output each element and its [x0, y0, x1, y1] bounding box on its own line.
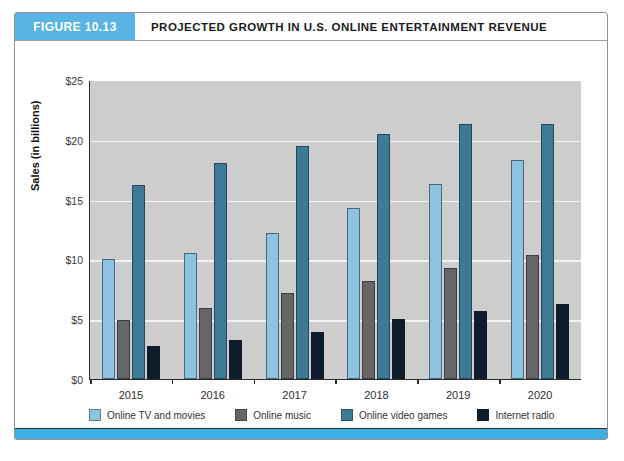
- bar: [541, 124, 554, 379]
- x-axis-tickmark: [335, 379, 337, 384]
- legend-label: Online video games: [359, 410, 447, 421]
- chart-legend: Online TV and moviesOnline musicOnline v…: [89, 409, 597, 421]
- legend-item: Internet radio: [477, 409, 554, 421]
- bar-chart: Sales (in billions) $0$5$10$15$20$25 201…: [15, 41, 607, 428]
- bar: [214, 163, 227, 379]
- y-axis-tick-label: $20: [43, 135, 83, 147]
- bar-group: 2018: [335, 81, 417, 379]
- x-axis-tickmark: [499, 379, 501, 384]
- bar: [377, 134, 390, 379]
- legend-item: Online video games: [341, 409, 447, 421]
- x-axis-tickmark: [90, 379, 92, 384]
- x-axis-tick-label: 2015: [90, 389, 172, 401]
- bar: [199, 308, 212, 379]
- figure-body: Sales (in billions) $0$5$10$15$20$25 201…: [15, 41, 607, 428]
- y-axis-tick-label: $25: [43, 75, 83, 87]
- bar-groups: 201520162017201820192020: [90, 81, 581, 379]
- legend-item: Online TV and movies: [89, 409, 205, 421]
- bar: [459, 124, 472, 379]
- bar: [147, 346, 160, 379]
- bar-group: 2015: [90, 81, 172, 379]
- figure-footer-bar: [15, 428, 607, 439]
- y-axis-tick-label: $5: [43, 314, 83, 326]
- bar: [444, 268, 457, 379]
- plot-area: 201520162017201820192020: [89, 81, 581, 380]
- x-axis-tickmark: [417, 379, 419, 384]
- y-axis-label: Sales (in billions): [29, 101, 41, 191]
- legend-swatch: [341, 409, 353, 421]
- bar: [117, 320, 130, 379]
- y-axis-tick-label: $0: [43, 374, 83, 386]
- y-axis-tick-label: $10: [43, 254, 83, 266]
- x-axis-tickmark: [172, 379, 174, 384]
- x-axis-tick-label: 2020: [499, 389, 581, 401]
- legend-swatch: [235, 409, 247, 421]
- legend-label: Online music: [253, 410, 311, 421]
- figure-header: FIGURE 10.13 PROJECTED GROWTH IN U.S. ON…: [15, 13, 607, 41]
- bar-group: 2016: [172, 81, 254, 379]
- legend-swatch: [477, 409, 489, 421]
- bar: [511, 160, 524, 379]
- bar: [556, 304, 569, 379]
- bar: [102, 259, 115, 379]
- x-axis-tick-label: 2018: [335, 389, 417, 401]
- bar: [266, 233, 279, 379]
- bar-group: 2019: [417, 81, 499, 379]
- legend-label: Online TV and movies: [107, 410, 205, 421]
- bar: [132, 185, 145, 379]
- legend-item: Online music: [235, 409, 311, 421]
- bar: [526, 255, 539, 379]
- bar: [429, 184, 442, 379]
- x-axis-tickmark: [254, 379, 256, 384]
- bar: [311, 332, 324, 379]
- x-axis-tick-label: 2016: [172, 389, 254, 401]
- y-axis-tick-label: $15: [43, 195, 83, 207]
- bar: [184, 253, 197, 379]
- bar: [362, 281, 375, 379]
- x-axis-tick-label: 2019: [417, 389, 499, 401]
- bar: [296, 146, 309, 379]
- bar: [474, 311, 487, 379]
- figure-title: PROJECTED GROWTH IN U.S. ONLINE ENTERTAI…: [135, 13, 607, 40]
- bar-group: 2020: [499, 81, 581, 379]
- bar: [281, 293, 294, 379]
- figure-card: FIGURE 10.13 PROJECTED GROWTH IN U.S. ON…: [14, 12, 608, 440]
- bar: [229, 340, 242, 379]
- bar: [347, 208, 360, 379]
- bar-group: 2017: [254, 81, 336, 379]
- x-axis-tick-label: 2017: [254, 389, 336, 401]
- figure-number-badge: FIGURE 10.13: [15, 13, 135, 40]
- legend-swatch: [89, 409, 101, 421]
- legend-label: Internet radio: [495, 410, 554, 421]
- bar: [392, 319, 405, 379]
